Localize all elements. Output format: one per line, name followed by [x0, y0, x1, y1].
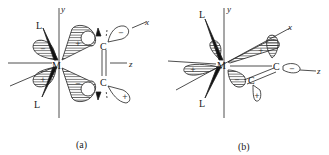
caption-a: (a): [76, 139, 87, 151]
carbon-label-lower-a: C: [100, 77, 107, 88]
sign-upper-left-a: −: [40, 45, 46, 53]
sign-carbon-lower-b: +: [254, 92, 260, 100]
caption-b: (b): [238, 141, 250, 153]
sign-carbon-upper-a: −: [118, 29, 124, 37]
sign-carbon-right-b: −: [289, 65, 295, 73]
sign-upper-right-a: +: [75, 40, 81, 48]
labels-b: y x z M L L C C − + + − − + (b): [190, 4, 321, 153]
lobe-upper-right-b-loop: [267, 35, 279, 58]
axis-label-y-b: y: [226, 4, 231, 14]
sign-lower-right-a: −: [75, 80, 81, 88]
sign-carbon-lower-a: +: [122, 93, 128, 101]
lobe-left-b: [184, 64, 218, 75]
ligand-label-lower-a: L: [34, 99, 40, 110]
sign-upper-left-b: −: [213, 44, 219, 52]
metal-label-a: M: [52, 60, 61, 71]
sign-left-b: +: [190, 66, 196, 74]
sign-upper-right-b: +: [258, 47, 264, 55]
orbital-diagram: y x z M L L C C − + + − − + (a): [0, 0, 329, 155]
ligand-label-upper-b: L: [199, 9, 205, 20]
sign-lower-left-a: +: [40, 76, 46, 84]
axis-label-z-b: z: [316, 66, 321, 76]
ligand-label-upper-a: L: [36, 20, 42, 31]
axis-label-x-b: x: [287, 22, 292, 32]
carbon-label-lower-b: C: [248, 75, 255, 86]
carbon-label-upper-a: C: [100, 41, 107, 52]
sign-lower-right-b: −: [234, 76, 240, 84]
z-axis-b-right: [300, 70, 316, 71]
ligand-label-lower-b: L: [199, 98, 205, 109]
panel-a: [8, 8, 146, 118]
axis-label-x-a: x: [144, 17, 149, 27]
axis-label-y-a: y: [60, 4, 65, 14]
carbon-label-right-b: C: [273, 61, 280, 72]
axis-label-z-a: z: [128, 59, 133, 69]
z-axis-b-left: [168, 61, 216, 64]
metal-label-b: M: [217, 60, 226, 71]
panel-b: [168, 8, 316, 118]
x-axis-a-far: [132, 22, 146, 28]
